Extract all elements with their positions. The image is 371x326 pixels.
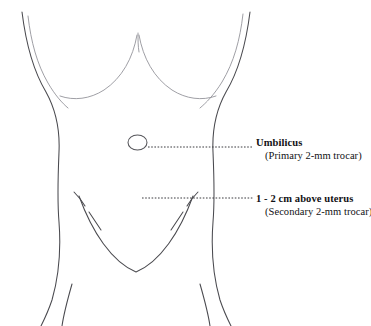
- annotation-uterus-title: 1 - 2 cm above uterus: [256, 192, 371, 205]
- torso-illustration: [0, 0, 371, 326]
- right-torso-contour: [212, 12, 250, 326]
- left-shoulder-contour: [28, 16, 68, 108]
- left-breast-curve: [60, 35, 137, 99]
- right-shoulder-contour: [200, 14, 243, 108]
- annotation-umbilicus: Umbilicus (Primary 2-mm trocar): [256, 136, 362, 162]
- left-groin-line-upper: [74, 192, 85, 206]
- pubic-curve: [79, 196, 193, 272]
- annotation-umbilicus-title: Umbilicus: [256, 136, 362, 149]
- left-torso-contour: [22, 12, 60, 326]
- left-groin-line-lower: [89, 212, 101, 230]
- right-breast-curve: [139, 35, 216, 99]
- right-groin-line-lower: [171, 212, 183, 230]
- left-thigh-line: [62, 284, 72, 326]
- trocar-placement-diagram: Umbilicus (Primary 2-mm trocar) 1 - 2 cm…: [0, 0, 371, 326]
- right-thigh-line: [200, 284, 210, 326]
- umbilicus-ellipse-marker: [128, 135, 147, 150]
- annotation-umbilicus-subtitle: (Primary 2-mm trocar): [256, 149, 362, 162]
- annotation-uterus-subtitle: (Secondary 2-mm trocar): [256, 205, 371, 218]
- annotation-uterus: 1 - 2 cm above uterus (Secondary 2-mm tr…: [256, 192, 371, 218]
- right-groin-line-upper: [187, 192, 198, 206]
